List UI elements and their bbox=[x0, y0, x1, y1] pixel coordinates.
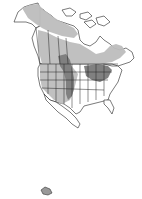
inset-island bbox=[41, 187, 52, 195]
florida bbox=[104, 100, 114, 114]
range-map bbox=[0, 0, 142, 199]
land-base bbox=[14, 3, 134, 128]
